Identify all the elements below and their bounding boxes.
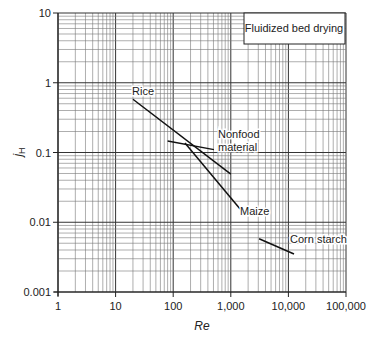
y-axis-title: jH [11,147,27,158]
y-tick-label: 0.01 [30,216,51,228]
y-tick-label: 0.001 [23,286,51,298]
title-box: Fluidized bed drying [244,13,345,44]
x-tick-label: 100,000 [326,300,366,312]
x-tick-label: 1 [55,300,61,312]
series-label: Corn starch [290,233,347,245]
y-tick-label: 1 [45,77,51,89]
x-axis-title: Re [194,319,210,333]
x-tick-label: 100 [164,300,182,312]
x-tick-label: 10,000 [272,300,306,312]
series-label: Nonfood [218,128,260,140]
svg-text:jH: jH [11,147,27,158]
y-tick-label: 0.1 [36,147,51,159]
chart: 1101001,00010,000100,0000.0010.010.1110 … [0,0,377,348]
series-label: Rice [132,85,154,97]
y-axis-title-sub: H [17,147,27,154]
x-tick-label: 10 [109,300,121,312]
chart-title: Fluidized bed drying [245,22,343,34]
series-label: Maize [240,205,269,217]
x-tick-label: 1,000 [217,300,245,312]
y-tick-label: 10 [39,7,51,19]
series-label: material [218,141,257,153]
